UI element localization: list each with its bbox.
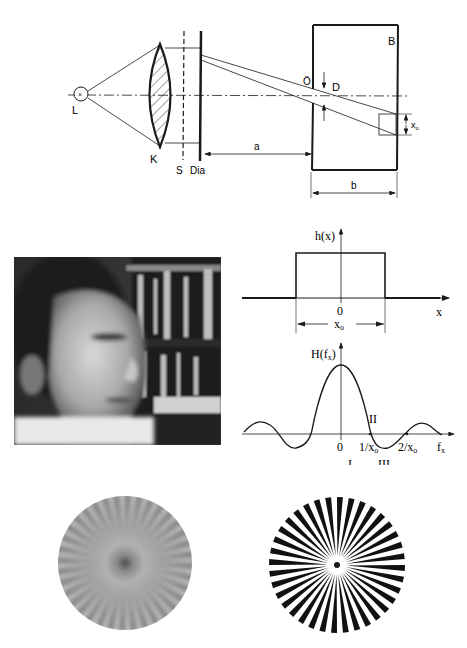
- label-box: B: [388, 35, 395, 47]
- star-spoke: [269, 566, 328, 577]
- portrait-photo: [14, 257, 221, 445]
- star-spoke: [331, 574, 337, 633]
- siemens-star-sharp: [267, 495, 407, 635]
- sinc-region-III: III: [378, 457, 390, 465]
- label-distance-a: a: [254, 141, 260, 152]
- label-stop: S: [176, 165, 183, 176]
- rect-origin: 0: [337, 304, 343, 318]
- label-aperture-diameter: D: [332, 81, 340, 93]
- rect-function-curve: [296, 253, 385, 298]
- sinc-curve: [244, 365, 442, 448]
- star-spoke: [337, 497, 343, 556]
- label-condenser: K: [150, 153, 158, 165]
- rect-ylabel: h(x): [315, 229, 335, 243]
- star-spoke: [325, 497, 336, 556]
- label-distance-b: b: [351, 180, 357, 191]
- sinc-tick-2: 2/xo: [398, 440, 417, 455]
- star-spoke: [338, 574, 349, 633]
- label-aperture-opening: Ö: [303, 76, 311, 87]
- optical-axis: [68, 95, 410, 96]
- slide-line: [200, 31, 201, 161]
- sinc-xlabel: fx: [437, 440, 445, 455]
- lamp-icon: ×: [74, 87, 88, 101]
- stop-line: [183, 31, 184, 160]
- sinc-ylabel: H(fx): [311, 347, 336, 362]
- rect-function-plot: h(x) x 0 xo: [236, 225, 467, 340]
- sinc-region-I: I: [348, 457, 352, 465]
- star-spoke: [346, 553, 405, 564]
- siemens-star-blurred: [55, 493, 195, 633]
- sinc-function-plot: H(fx) 0 1/xo 2/xo fx I II III: [236, 340, 467, 465]
- optical-diagram: × L K S Dia B Ö D xo a b: [0, 0, 467, 215]
- star-spoke: [346, 565, 405, 571]
- label-lamp: L: [72, 104, 78, 116]
- label-image-size: xo: [411, 120, 420, 131]
- sinc-origin: 0: [337, 440, 343, 454]
- svg-text:×: ×: [78, 91, 82, 98]
- star-spoke: [269, 559, 328, 565]
- label-slide: Dia: [190, 165, 205, 176]
- sinc-region-II: II: [369, 412, 377, 426]
- rect-width-label: xo: [334, 317, 344, 332]
- condenser-lens: [150, 44, 171, 147]
- rect-xlabel: x: [436, 305, 442, 319]
